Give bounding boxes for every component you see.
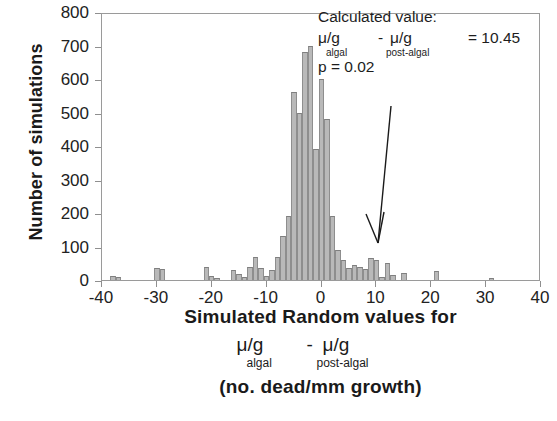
y-axis-tick-label: 800 [43,4,89,21]
x-axis-tick [375,281,376,287]
x-axis-mu-post-algal: μ/g [323,334,350,356]
x-axis-tick-label: 0 [291,289,351,306]
histogram-figure: Number of simulations 010020030040050060… [0,0,557,421]
x-axis-tick-label: 30 [455,289,515,306]
annotation-expression: μ/g algal - μ/g post-algal = 10.45 [318,29,548,49]
x-axis-title: Simulated Random values for μ/g algal - … [101,306,540,398]
y-axis-tick [95,147,101,148]
x-axis-title-units: (no. dead/mm growth) [101,376,540,398]
y-axis-tick [95,181,101,182]
x-axis-minus-sign: - [307,334,313,356]
x-axis-tick [211,281,212,287]
y-axis-tick-label: 600 [43,71,89,88]
x-axis-tick-label: 10 [345,289,405,306]
x-axis-tick-label: -40 [71,289,131,306]
annotation-title: Calculated value: [318,8,548,25]
y-axis-tick-label: 500 [43,105,89,122]
y-axis-tick [95,80,101,81]
y-axis-tick [95,214,101,215]
y-axis-tick-label: 700 [43,38,89,55]
x-axis-tick [266,281,267,287]
calculated-value-annotation: Calculated value: μ/g algal - μ/g post-a… [318,8,548,75]
x-axis-subscript-algal: algal [247,356,272,370]
x-axis-subscript-post-algal: post-algal [317,356,369,370]
annotation-equals-value: = 10.45 [468,29,520,46]
x-axis-mu-algal: μ/g [237,334,264,356]
histogram-bar [390,275,395,280]
x-axis-title-expression: μ/g algal - μ/g post-algal [101,334,540,364]
x-axis-tick [156,281,157,287]
histogram-bar [489,278,494,280]
histogram-bar [401,273,406,280]
y-axis-tick [95,47,101,48]
y-axis-tick-label: 100 [43,239,89,256]
y-axis-tick [95,248,101,249]
x-axis-tick [540,281,541,287]
x-axis-tick [430,281,431,287]
x-axis-title-line1: Simulated Random values for [101,306,540,328]
x-axis-tick-label: -30 [126,289,186,306]
y-axis-tick-label: 200 [43,205,89,222]
x-axis-tick-label: 20 [400,289,460,306]
histogram-bar [434,271,439,280]
x-axis-tick [321,281,322,287]
x-axis-tick-label: 40 [510,289,557,306]
x-axis-tick [101,281,102,287]
x-axis-tick-label: -10 [236,289,296,306]
x-axis-tick-label: -20 [181,289,241,306]
y-axis-tick-label: 300 [43,172,89,189]
y-axis-tick-label: 400 [43,138,89,155]
annotation-p-value: p = 0.02 [318,58,548,75]
histogram-bar [160,269,165,280]
histogram-bar [214,278,219,280]
y-axis-tick-label: 0 [43,272,89,289]
y-axis-tick [95,114,101,115]
histogram-bar [116,277,121,280]
y-axis-tick [95,13,101,14]
x-axis-tick [485,281,486,287]
annotation-minus-sign: - [378,29,383,46]
